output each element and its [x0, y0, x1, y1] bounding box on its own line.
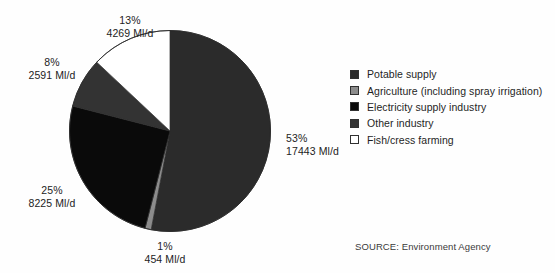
- legend-item-label: Fish/cress farming: [367, 134, 454, 146]
- legend-swatch-black: [350, 102, 359, 111]
- slice-label-percent: 25%: [6, 184, 98, 197]
- slice-label-other-industry: 8% 2591 Ml/d: [6, 56, 98, 81]
- slice-label-amount: 454 Ml/d: [117, 253, 213, 266]
- slice-label-amount: 4269 Ml/d: [82, 27, 178, 40]
- legend-item[interactable]: Potable supply: [350, 66, 542, 82]
- slice-label-amount: 2591 Ml/d: [6, 69, 98, 82]
- legend-item[interactable]: Other industry: [350, 115, 542, 131]
- pie-chart-svg: [69, 30, 271, 232]
- pie-chart-figure: 13% 4269 Ml/d 8% 2591 Ml/d 25% 8225 Ml/d…: [0, 0, 555, 273]
- legend-item[interactable]: Electricity supply industry: [350, 99, 542, 115]
- legend-swatch-mid-gray: [350, 86, 359, 95]
- slice-label-amount: 8225 Ml/d: [6, 197, 98, 210]
- slice-label-percent: 1%: [117, 240, 213, 253]
- pie-slice-group: [70, 31, 271, 232]
- legend-item[interactable]: Agriculture (including spray irrigation): [350, 82, 542, 98]
- slice-label-electricity-supply-industry: 25% 8225 Ml/d: [6, 184, 98, 209]
- legend-item[interactable]: Fish/cress farming: [350, 132, 542, 148]
- chart-legend: Potable supplyAgriculture (including spr…: [350, 66, 542, 148]
- pie-chart-plot-area: [69, 30, 271, 232]
- legend-swatch-white: [350, 135, 359, 144]
- legend-item-label: Agriculture (including spray irrigation): [367, 85, 542, 97]
- legend-item-label: Other industry: [367, 117, 434, 129]
- slice-label-percent: 8%: [6, 56, 98, 69]
- legend-item-label: Potable supply: [367, 68, 437, 80]
- slice-label-fish-cress-farming: 13% 4269 Ml/d: [82, 14, 178, 39]
- legend-swatch-charcoal: [350, 119, 359, 128]
- legend-swatch-dark-gray: [350, 70, 359, 79]
- slice-label-percent: 13%: [82, 14, 178, 27]
- source-note: SOURCE: Environment Agency: [355, 241, 491, 252]
- slice-label-agriculture: 1% 454 Ml/d: [117, 240, 213, 265]
- legend-item-label: Electricity supply industry: [367, 101, 486, 113]
